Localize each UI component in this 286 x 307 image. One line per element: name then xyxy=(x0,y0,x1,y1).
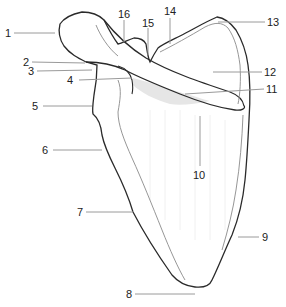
label-1: 1 xyxy=(5,28,11,39)
leader-lines xyxy=(14,18,265,294)
leader-2 xyxy=(32,62,85,63)
label-8: 8 xyxy=(126,289,132,300)
label-15: 15 xyxy=(142,18,154,29)
label-14: 14 xyxy=(164,6,176,17)
label-10: 10 xyxy=(193,170,205,181)
label-6: 6 xyxy=(42,145,48,156)
acromion-inner-line xyxy=(96,25,118,56)
body-texture xyxy=(150,110,225,240)
leader-3 xyxy=(37,70,92,71)
body-inner-line xyxy=(118,80,185,280)
label-3: 3 xyxy=(28,66,34,77)
label-9: 9 xyxy=(262,232,268,243)
label-4: 4 xyxy=(67,75,73,86)
label-7: 7 xyxy=(77,207,83,218)
label-12: 12 xyxy=(264,67,276,78)
label-13: 13 xyxy=(267,17,279,28)
spine-lower-edge xyxy=(86,62,245,110)
label-16: 16 xyxy=(118,9,130,20)
label-5: 5 xyxy=(32,101,38,112)
label-11: 11 xyxy=(266,84,277,95)
leader-4 xyxy=(79,78,132,80)
